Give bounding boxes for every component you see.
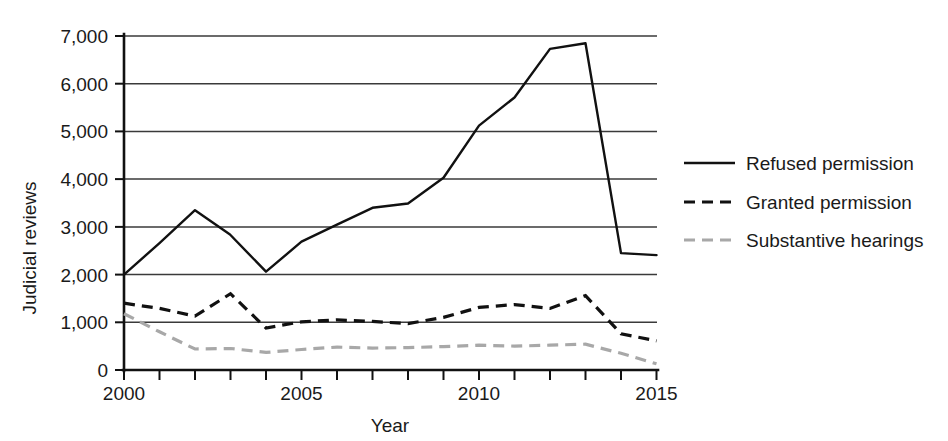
line-chart-svg: 7,000 6,000 5,000 4,000 3,000 2,000 1,00…: [0, 0, 948, 441]
ytick-label-7000: 7,000: [60, 26, 108, 47]
ytick-label-3000: 3,000: [60, 217, 108, 238]
ytick-label-4000: 4,000: [60, 169, 108, 190]
x-axis-title: Year: [371, 415, 410, 436]
legend-label-refused-permission: Refused permission: [746, 153, 914, 174]
xtick-label-2010: 2010: [458, 383, 500, 404]
legend-label-granted-permission: Granted permission: [746, 192, 912, 213]
xtick-label-2000: 2000: [103, 383, 145, 404]
y-axis-title: Judicial reviews: [19, 181, 40, 314]
chart-figure: 7,000 6,000 5,000 4,000 3,000 2,000 1,00…: [0, 0, 948, 441]
ytick-label-1000: 1,000: [60, 312, 108, 333]
xtick-label-2005: 2005: [280, 383, 322, 404]
chart-background: [0, 0, 948, 441]
legend-label-substantive-hearings: Substantive hearings: [746, 230, 923, 251]
ytick-label-5000: 5,000: [60, 121, 108, 142]
ytick-label-0: 0: [97, 360, 108, 381]
ytick-label-6000: 6,000: [60, 74, 108, 95]
xtick-label-2015: 2015: [635, 383, 677, 404]
ytick-label-2000: 2,000: [60, 265, 108, 286]
